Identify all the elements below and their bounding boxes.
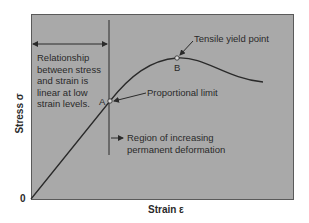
linear-note-line-3: and strain is	[37, 75, 101, 87]
point-b-label: B	[174, 62, 180, 73]
origin-label: 0	[20, 193, 26, 204]
proportional-limit-pointer	[114, 93, 146, 101]
permanent-note-line-2: permanent deformation	[127, 144, 225, 156]
point-a-label: A	[99, 96, 105, 107]
linear-note-line-2: between stress	[37, 64, 101, 76]
linear-note-line-5: strain levels.	[37, 98, 101, 110]
stress-strain-figure: Relationship between stress and strain i…	[0, 0, 309, 223]
linear-region-note: Relationship between stress and strain i…	[37, 52, 101, 110]
tensile-yield-label: Tensile yield point	[194, 33, 269, 44]
permanent-note-line-1: Region of increasing	[127, 132, 225, 144]
point-b-marker	[175, 56, 179, 60]
linear-note-line-4: linear at low	[37, 87, 101, 99]
proportional-limit-label: Proportional limit	[147, 87, 218, 98]
point-a-marker	[108, 99, 112, 103]
x-axis-label: Strain ε	[148, 204, 184, 215]
linear-note-line-1: Relationship	[37, 52, 101, 64]
tensile-yield-pointer	[180, 41, 193, 55]
permanent-deformation-note: Region of increasing permanent deformati…	[127, 132, 225, 155]
y-axis-label: Stress σ	[14, 89, 25, 139]
